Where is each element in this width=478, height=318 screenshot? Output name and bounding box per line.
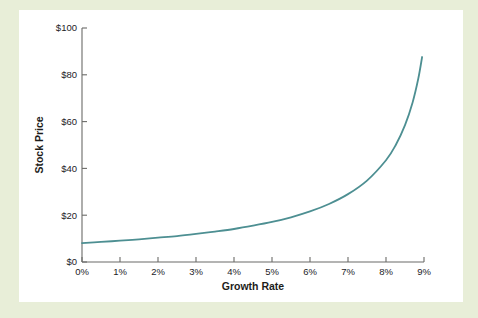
- x-tick-label: 3%: [189, 266, 203, 277]
- x-axis-ticks: [82, 257, 424, 262]
- x-tick-label: 8%: [379, 266, 393, 277]
- y-tick-label: $80: [61, 69, 77, 80]
- stock-price-vs-growth-rate-chart: $0$20$40$60$80$100 Stock Price 0%1%2%3%4…: [19, 10, 463, 302]
- y-tick-label: $60: [61, 116, 77, 127]
- y-tick-label: $100: [56, 22, 77, 33]
- x-axis-group: 0%1%2%3%4%5%6%7%8%9% Growth Rate: [75, 257, 431, 292]
- series-group: [82, 57, 422, 243]
- chart-card: $0$20$40$60$80$100 Stock Price 0%1%2%3%4…: [19, 10, 463, 302]
- y-axis-group: $0$20$40$60$80$100 Stock Price: [33, 22, 87, 267]
- chart-plot-area: $0$20$40$60$80$100 Stock Price 0%1%2%3%4…: [19, 10, 463, 302]
- y-axis-tick-labels: $0$20$40$60$80$100: [56, 22, 77, 267]
- x-tick-label: 7%: [341, 266, 355, 277]
- x-tick-label: 6%: [303, 266, 317, 277]
- y-axis-title: Stock Price: [33, 116, 45, 173]
- x-tick-label: 0%: [75, 266, 89, 277]
- x-tick-label: 5%: [265, 266, 279, 277]
- figure-root: $0$20$40$60$80$100 Stock Price 0%1%2%3%4…: [0, 0, 478, 318]
- x-tick-label: 9%: [417, 266, 431, 277]
- x-tick-label: 2%: [151, 266, 165, 277]
- data-curve-stock-price: [82, 57, 422, 243]
- x-axis-title: Growth Rate: [222, 280, 285, 292]
- x-tick-label: 4%: [227, 266, 241, 277]
- y-tick-label: $20: [61, 210, 77, 221]
- x-tick-label: 1%: [113, 266, 127, 277]
- x-axis-tick-labels: 0%1%2%3%4%5%6%7%8%9%: [75, 266, 431, 277]
- y-tick-label: $40: [61, 163, 77, 174]
- y-axis-ticks: [82, 28, 87, 262]
